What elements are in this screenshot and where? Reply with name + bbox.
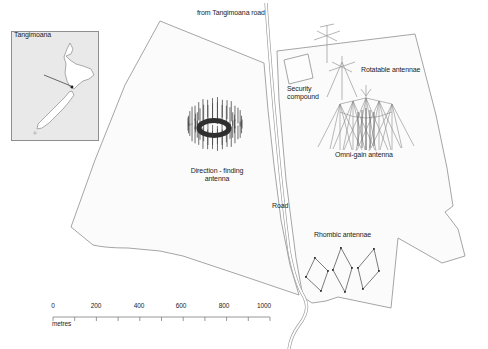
direction-finding-antenna-label: Direction - finding antenna bbox=[178, 167, 256, 183]
omni-gain-antenna-label: Omni-gain antenna bbox=[335, 151, 393, 159]
scale-tick-0: 0 bbox=[51, 302, 55, 309]
security-compound-label: Security compound bbox=[287, 85, 329, 101]
rotatable-antennae-label: Rotatable antennae bbox=[361, 66, 420, 74]
site-map: Tangimoana from Tangimoana road Security… bbox=[0, 0, 488, 349]
new-zealand-outline bbox=[12, 32, 98, 140]
scale-tick-1000: 1000 bbox=[257, 302, 271, 309]
inset-locator-map bbox=[11, 31, 99, 141]
rhombic-antennae-label: Rhombic antennae bbox=[314, 231, 371, 239]
security-compound-outline bbox=[284, 54, 313, 84]
scale-tick-400: 400 bbox=[134, 302, 145, 309]
scale-tick-800: 800 bbox=[219, 302, 230, 309]
scale-bar bbox=[53, 317, 270, 321]
access-road-label: from Tangimoana road bbox=[197, 9, 265, 17]
west-parcel-boundary bbox=[71, 21, 299, 295]
scale-tick-600: 600 bbox=[176, 302, 187, 309]
inset-place-label: Tangimoana bbox=[14, 31, 51, 39]
scale-tick-200: 200 bbox=[91, 302, 102, 309]
road-label: Road bbox=[272, 202, 288, 210]
scale-unit-label: metres bbox=[52, 320, 71, 328]
